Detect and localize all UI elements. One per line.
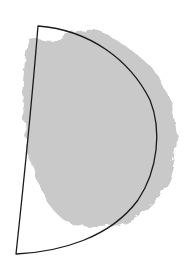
grey-blob <box>23 30 177 228</box>
figure-canvas <box>0 0 190 277</box>
